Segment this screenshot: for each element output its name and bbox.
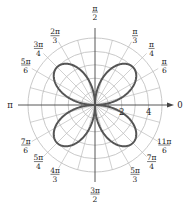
svg-text:π: π — [7, 100, 13, 110]
svg-text:3π: 3π — [34, 40, 44, 49]
svg-text:6: 6 — [23, 66, 28, 75]
angle-label: 5π6 — [21, 57, 31, 75]
svg-text:11π: 11π — [157, 137, 172, 146]
angle-label: 5π4 — [34, 153, 44, 171]
svg-text:7π: 7π — [147, 153, 157, 162]
angle-label: 11π6 — [157, 137, 172, 155]
svg-text:4: 4 — [36, 49, 41, 58]
svg-text:π: π — [149, 40, 154, 49]
angle-label: 7π4 — [147, 153, 157, 171]
angle-label: 2π3 — [50, 27, 60, 45]
svg-text:7π: 7π — [21, 137, 31, 146]
svg-text:3: 3 — [133, 175, 138, 184]
svg-text:2π: 2π — [50, 27, 60, 36]
angle-label: π3 — [132, 27, 138, 45]
angle-label: 4π3 — [50, 166, 60, 184]
svg-text:0: 0 — [177, 100, 182, 110]
svg-text:2: 2 — [93, 13, 98, 22]
svg-text:6: 6 — [162, 146, 167, 155]
svg-text:5π: 5π — [130, 166, 140, 175]
svg-text:5π: 5π — [21, 57, 31, 66]
angle-label: π — [7, 100, 13, 110]
svg-text:3: 3 — [53, 175, 58, 184]
angle-label: 3π2 — [90, 186, 100, 204]
radius-tick-label: 2 — [119, 107, 124, 117]
polar-plot: 0π6π4π3π22π33π45π6π7π65π44π33π25π37π411π… — [0, 0, 190, 214]
svg-text:4: 4 — [149, 162, 154, 171]
svg-text:6: 6 — [23, 146, 28, 155]
angle-label: 7π6 — [21, 137, 31, 155]
svg-text:4: 4 — [36, 162, 41, 171]
svg-text:6: 6 — [162, 66, 167, 75]
angle-label: π2 — [92, 4, 98, 22]
svg-text:π: π — [162, 57, 167, 66]
radius-tick-label: 4 — [146, 107, 151, 117]
svg-text:3: 3 — [53, 36, 58, 45]
angle-label: 5π3 — [130, 166, 140, 184]
svg-text:3π: 3π — [90, 186, 100, 195]
angle-label: 0 — [177, 100, 182, 110]
svg-text:5π: 5π — [34, 153, 44, 162]
svg-text:π: π — [133, 27, 138, 36]
angle-label: π4 — [149, 40, 155, 58]
axis-arrow-icon — [167, 103, 174, 108]
svg-text:π: π — [93, 4, 98, 13]
angle-label: π6 — [161, 57, 167, 75]
svg-text:2: 2 — [93, 195, 98, 204]
svg-text:4: 4 — [149, 49, 154, 58]
svg-text:4π: 4π — [50, 166, 60, 175]
angle-label: 3π4 — [34, 40, 44, 58]
svg-text:3: 3 — [133, 36, 138, 45]
